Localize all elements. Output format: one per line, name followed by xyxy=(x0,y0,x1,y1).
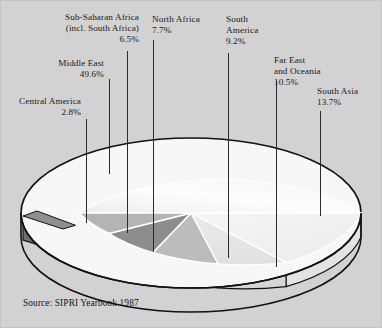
label-far-east-oceania-line1: Far East xyxy=(274,55,305,65)
pie-side-walls xyxy=(23,213,361,289)
side-wall-central-america-b xyxy=(63,225,76,253)
source-note: Source: SIPRI Yearbook 1987 xyxy=(23,298,139,308)
slice-sub-saharan xyxy=(79,213,191,234)
slice-central-america xyxy=(23,211,76,229)
slice-south-america xyxy=(153,213,218,264)
leader-line-middle-east xyxy=(109,79,110,174)
leader-line-south-america xyxy=(228,53,229,258)
label-south-asia-line1: South Asia xyxy=(317,86,358,96)
label-sub-saharan-africa-value: 6.5% xyxy=(29,34,139,45)
label-south-america-line2: America xyxy=(226,25,258,35)
pie-top-slices xyxy=(79,180,361,265)
leader-line-south-asia xyxy=(320,111,321,216)
label-central-america-line1: Central America xyxy=(19,96,81,106)
leader-line-far-east xyxy=(276,81,277,267)
pie-chart-graphic xyxy=(1,1,382,328)
label-middle-east: Middle East 49.6% xyxy=(29,58,104,80)
label-far-east-oceania-line2: and Oceania xyxy=(274,66,321,76)
label-central-america-value: 2.8% xyxy=(9,107,81,118)
leader-line-central-america xyxy=(86,119,87,223)
leader-line-sub-saharan xyxy=(127,51,128,233)
pie-chart-figure: Sub-Saharan Africa (incl. South Africa) … xyxy=(0,0,382,328)
slice-middle-east xyxy=(79,180,361,213)
side-wall-south-asia xyxy=(286,213,361,287)
side-wall-central-america xyxy=(23,216,63,253)
label-south-asia-value: 13.7% xyxy=(317,97,358,108)
label-sub-saharan-africa-line1: Sub-Saharan Africa xyxy=(65,12,139,22)
label-far-east-oceania: Far East and Oceania 10.5% xyxy=(274,55,321,89)
label-sub-saharan-africa-line2: (incl. South Africa) xyxy=(66,23,139,33)
slice-north-africa xyxy=(109,213,191,253)
label-north-africa-line1: North Africa xyxy=(152,14,200,24)
label-north-africa-value: 7.7% xyxy=(152,25,200,36)
label-middle-east-value: 49.6% xyxy=(29,69,104,80)
side-wall-sub-saharan xyxy=(79,213,109,258)
label-south-america: South America 9.2% xyxy=(226,14,258,48)
label-south-america-value: 9.2% xyxy=(226,36,258,47)
label-south-america-line1: South xyxy=(226,14,248,24)
pie-top-ellipse xyxy=(21,138,361,288)
label-north-africa: North Africa 7.7% xyxy=(152,14,200,36)
slice-far-east xyxy=(191,213,286,265)
side-wall-north-africa xyxy=(109,234,153,277)
label-middle-east-line1: Middle East xyxy=(58,58,104,68)
label-south-asia: South Asia 13.7% xyxy=(317,86,358,108)
label-central-america: Central America 2.8% xyxy=(9,96,81,118)
label-far-east-oceania-value: 10.5% xyxy=(274,77,321,88)
slice-central-america-top xyxy=(23,211,76,229)
leader-line-north-africa xyxy=(153,40,154,252)
label-sub-saharan-africa: Sub-Saharan Africa (incl. South Africa) … xyxy=(29,12,139,46)
side-wall-south-america xyxy=(153,253,218,288)
